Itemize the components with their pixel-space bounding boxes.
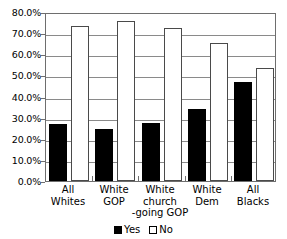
bars-layer [46, 14, 275, 181]
y-axis: 0.0%10.0%20.0%30.0%40.0%50.0%60.0%70.0%8… [0, 0, 44, 190]
legend-swatch-filled-square-icon [114, 226, 122, 234]
bar-no-3 [164, 28, 182, 181]
y-tick-mark [41, 161, 45, 162]
bar-yes-1 [49, 124, 67, 181]
x-category-label-line: All [222, 184, 284, 196]
y-tick-mark [41, 98, 45, 99]
chart-legend: YesNo [0, 220, 287, 239]
bar-yes-4 [188, 109, 206, 181]
legend-swatch-outlined-square-icon [149, 226, 157, 234]
y-tick-mark [41, 76, 45, 77]
bar-no-2 [117, 21, 135, 181]
y-tick-label: 40.0% [12, 93, 41, 103]
plot-area [45, 13, 276, 182]
x-axis: AllWhitesWhiteGOPWhitechurch-going GOPWh… [45, 184, 276, 222]
bar-yes-2 [95, 129, 113, 181]
y-tick-mark [41, 13, 45, 14]
x-group-separator [138, 176, 139, 181]
y-tick-mark [41, 119, 45, 120]
x-group-separator [92, 176, 93, 181]
bar-no-5 [256, 68, 274, 181]
y-tick-label: 70.0% [12, 29, 41, 39]
bar-yes-5 [234, 82, 252, 181]
x-category-label: AllBlacks [222, 184, 284, 207]
x-category-label-line: Blacks [222, 196, 284, 208]
y-tick-label: 10.0% [12, 156, 41, 166]
bar-no-4 [210, 43, 228, 181]
y-tick-label: 30.0% [12, 114, 41, 124]
y-tick-label: 50.0% [12, 71, 41, 81]
legend-label: Yes [124, 224, 140, 235]
bar-yes-3 [142, 123, 160, 181]
y-tick-label: 20.0% [12, 135, 41, 145]
y-tick-label: 80.0% [12, 8, 41, 18]
legend-item-no: No [149, 224, 173, 235]
y-tick-label: 60.0% [12, 50, 41, 60]
y-tick-mark [41, 182, 45, 183]
bar-chart: 0.0%10.0%20.0%30.0%40.0%50.0%60.0%70.0%8… [0, 0, 287, 239]
y-tick-mark [41, 55, 45, 56]
y-tick-mark [41, 140, 45, 141]
legend-label: No [159, 224, 173, 235]
legend-item-yes: Yes [114, 224, 140, 235]
bar-no-1 [71, 26, 89, 181]
x-category-label-line: -going GOP [129, 207, 191, 219]
x-group-separator [185, 176, 186, 181]
y-tick-mark [41, 34, 45, 35]
x-group-separator [231, 176, 232, 181]
